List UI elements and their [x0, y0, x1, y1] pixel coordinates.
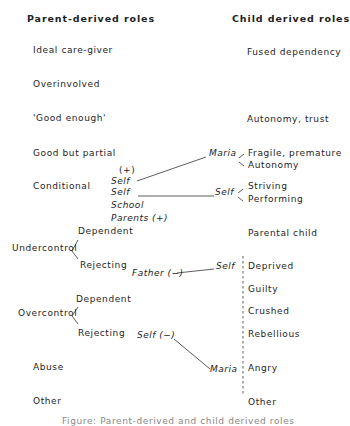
child-role-other: Other — [248, 397, 277, 408]
child-role-autonomy-trust: Autonomy, trust — [247, 114, 329, 125]
connector-self-to-maria-bottom — [174, 339, 210, 369]
parent-role-conditional: Conditional — [33, 181, 91, 192]
child-role-fused: Fused dependency — [247, 47, 341, 58]
conditional-self-1: Self — [111, 176, 130, 187]
fork-self-striving — [238, 189, 243, 193]
overcontrol-dependent: Dependent — [76, 294, 131, 305]
intermediate-self-father: Self — [216, 261, 235, 272]
figure-caption: Figure: Parent-derived and child derived… — [62, 416, 295, 426]
parent-role-ideal: Ideal care-giver — [33, 45, 113, 56]
child-roles-header: Child derived roles — [232, 13, 350, 24]
parent-role-good-enough: 'Good enough' — [33, 113, 106, 124]
parent-role-other: Other — [33, 396, 62, 407]
parent-role-overinvolved: Overinvolved — [33, 79, 100, 90]
child-role-parental-child: Parental child — [248, 228, 317, 239]
fork-maria-fragile — [239, 154, 244, 158]
intermediate-self-minus: Self (−) — [137, 330, 175, 341]
child-role-guilty: Guilty — [248, 284, 278, 295]
intermediate-maria-bottom: Maria — [210, 364, 238, 375]
parent-role-abuse: Abuse — [33, 362, 64, 373]
undercontrol-dependent: Dependent — [78, 226, 133, 237]
child-role-autonomy: Autonomy — [248, 160, 299, 171]
overcontrol-rejecting: Rejecting — [78, 328, 125, 339]
fork-maria-autonomy — [239, 162, 244, 166]
intermediate-self-mid: Self — [215, 187, 234, 198]
child-role-deprived: Deprived — [248, 261, 294, 272]
parent-role-overcontrol: Overcontrol — [18, 308, 77, 319]
conditional-parents: Parents (+) — [111, 213, 168, 224]
child-role-fragile: Fragile, premature — [248, 148, 342, 159]
child-role-crushed: Crushed — [248, 306, 290, 317]
intermediate-father: Father (−) — [132, 268, 184, 279]
parent-role-good-partial: Good but partial — [33, 148, 116, 159]
connector-self-to-maria — [137, 157, 206, 181]
child-role-performing: Performing — [248, 194, 303, 205]
child-role-rebellious: Rebellious — [248, 329, 300, 340]
conditional-self-2: Self — [111, 187, 130, 198]
child-role-angry: Angry — [248, 363, 278, 374]
child-role-striving: Striving — [248, 181, 288, 192]
undercontrol-rejecting: Rejecting — [80, 260, 127, 271]
intermediate-maria-top: Maria — [209, 148, 237, 159]
fork-self-performing — [238, 197, 243, 201]
conditional-plus: (+) — [119, 165, 135, 176]
parent-roles-header: Parent-derived roles — [27, 13, 155, 24]
parent-role-undercontrol: Undercontrol — [12, 243, 77, 254]
conditional-school: School — [111, 200, 144, 211]
